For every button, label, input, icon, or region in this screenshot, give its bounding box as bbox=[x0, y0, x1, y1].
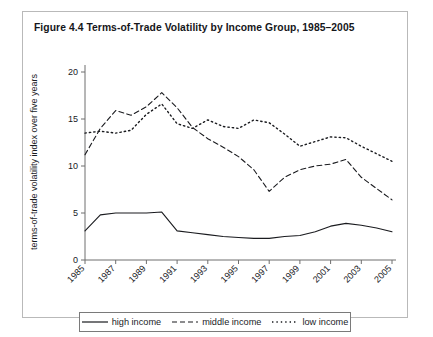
x-tick-label: 1993 bbox=[188, 263, 209, 284]
x-axis-ticks: 1985198719891991199319951997199920012003… bbox=[65, 260, 393, 285]
chart-axes bbox=[85, 65, 396, 260]
series-line-middle-income bbox=[85, 93, 392, 200]
x-tick-label: 1999 bbox=[280, 263, 301, 284]
series-line-high-income bbox=[85, 212, 392, 238]
x-tick-label: 1989 bbox=[127, 263, 148, 284]
series-line-low-income bbox=[85, 104, 392, 161]
y-tick-label: 10 bbox=[68, 161, 78, 171]
y-axis-title: terms-of-trade volatility index over fiv… bbox=[29, 73, 39, 250]
x-tick-label: 1987 bbox=[96, 263, 117, 284]
x-tick-label: 1997 bbox=[249, 263, 270, 284]
legend-label-middle-income: middle income bbox=[202, 317, 261, 327]
dashed-line-swatch bbox=[172, 318, 198, 326]
legend-item-low-income: low income bbox=[272, 317, 348, 327]
chart-plot-area: 05101520 1985198719891991199319951997199… bbox=[23, 38, 409, 288]
y-tick-label: 5 bbox=[73, 208, 78, 218]
solid-line-swatch bbox=[82, 318, 108, 326]
chart-svg: 05101520 1985198719891991199319951997199… bbox=[23, 38, 409, 288]
y-axis-ticks: 05101520 bbox=[68, 67, 85, 265]
y-tick-label: 15 bbox=[68, 114, 78, 124]
legend-label-low-income: low income bbox=[302, 317, 348, 327]
x-tick-label: 1985 bbox=[65, 263, 86, 284]
legend-item-middle-income: middle income bbox=[172, 317, 261, 327]
x-tick-label: 2001 bbox=[311, 263, 332, 284]
x-tick-label: 2005 bbox=[372, 263, 393, 284]
chart-series-group bbox=[85, 93, 392, 239]
figure-title: Figure 4.4 Terms-of-Trade Volatility by … bbox=[34, 22, 355, 33]
chart-legend: high income middle income low income bbox=[79, 312, 351, 332]
x-tick-label: 1995 bbox=[219, 263, 240, 284]
dotted-line-swatch bbox=[272, 318, 298, 326]
legend-label-high-income: high income bbox=[112, 317, 162, 327]
x-tick-label: 1991 bbox=[157, 263, 178, 284]
y-tick-label: 20 bbox=[68, 67, 78, 77]
y-tick-label: 0 bbox=[73, 255, 78, 265]
figure-container: Figure 4.4 Terms-of-Trade Volatility by … bbox=[22, 11, 408, 318]
legend-item-high-income: high income bbox=[82, 317, 162, 327]
x-tick-label: 2003 bbox=[341, 263, 362, 284]
